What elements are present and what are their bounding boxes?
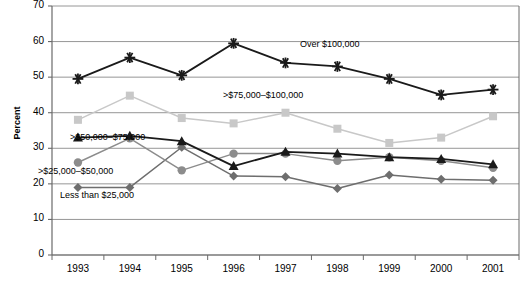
x-tick-label: 1994 [103,263,157,274]
x-tick-label: 1995 [155,263,209,274]
marker-diamond [385,170,394,179]
marker-square [178,114,186,122]
x-tick-label: 2000 [414,263,468,274]
marker-circle [178,166,186,174]
marker-diamond [333,184,342,193]
y-tick-label: 50 [18,70,44,81]
series-label-over-100-000: Over $100,000 [300,39,360,49]
marker-square [333,125,341,133]
marker-square [437,134,445,142]
y-tick-label: 10 [18,212,44,223]
marker-square [385,139,393,147]
y-tick-label: 30 [18,141,44,152]
marker-circle [229,149,237,157]
series-label-25-000-50-000: >$25,000–$50,000 [38,166,113,176]
marker-diamond [229,172,238,181]
x-tick-label: 1999 [362,263,416,274]
x-tick-label: 2001 [466,263,520,274]
x-tick-label: 1996 [207,263,261,274]
y-tick-label: 70 [18,0,44,10]
marker-square [74,116,82,124]
chart-container: Percent 706050403020100 1993199419951996… [0,0,529,283]
series-label-50-000-75-000: >$50,000–$75,000 [70,132,145,142]
x-tick-label: 1993 [51,263,105,274]
series-label-75-000-100-000: >$75,000–$100,000 [223,90,303,100]
y-tick-label: 40 [18,106,44,117]
series-label-less-than-25-000: Less than $25,000 [60,190,134,200]
y-tick-label: 0 [18,248,44,259]
marker-circle [333,157,341,165]
marker-square [282,109,290,117]
marker-square [489,112,497,120]
marker-square [126,92,134,100]
series-line [78,43,493,95]
y-tick-label: 20 [18,177,44,188]
marker-diamond [281,172,290,181]
x-tick-label: 1998 [310,263,364,274]
marker-diamond [437,175,446,184]
marker-square [230,119,238,127]
x-tick-label: 1997 [259,263,313,274]
y-tick-label: 60 [18,35,44,46]
